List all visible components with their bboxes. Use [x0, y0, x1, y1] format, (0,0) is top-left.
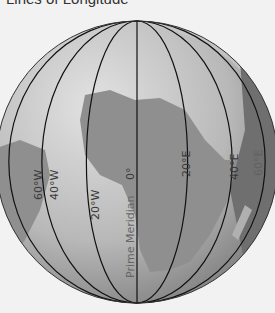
- label-60w: 60°W: [32, 170, 45, 200]
- label-40e: 40°E: [228, 154, 241, 180]
- label-40w: 40°W: [48, 170, 61, 200]
- label-0: 0°: [124, 168, 137, 181]
- label-20e: 20°E: [180, 151, 193, 177]
- label-prime-meridian: Prime Meridian: [124, 195, 137, 278]
- globe-diagram: 60°W 40°W 20°W 0° Prime Meridian 20°E 40…: [0, 0, 275, 313]
- label-60e: 60°E: [252, 150, 265, 176]
- label-20w: 20°W: [89, 190, 102, 220]
